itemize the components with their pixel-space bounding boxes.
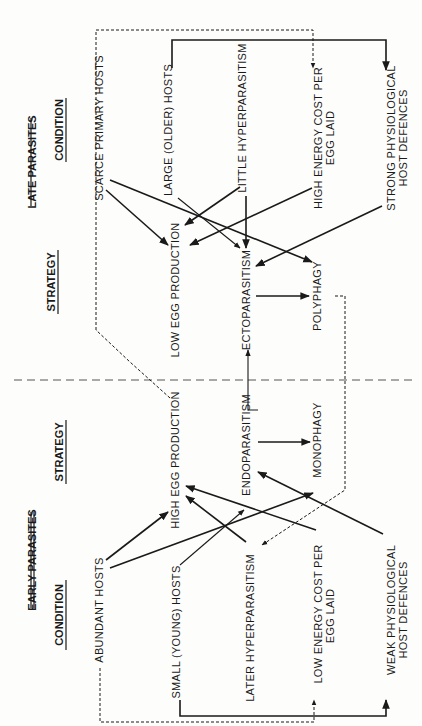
svg-text:EGG LAID: EGG LAID — [324, 589, 336, 643]
node-low-energy-cost: LOW ENERGY COST PER — [312, 544, 324, 683]
svg-text:EGG LAID: EGG LAID — [324, 111, 336, 165]
node-later-hyperparasitism: LATER HYPERPARASITISM — [244, 554, 256, 702]
node-abundant-hosts: ABUNDANT HOSTS — [93, 557, 105, 662]
node-low-egg-production: LOW EGG PRODUCTION — [169, 223, 181, 358]
node-endoparasitism: ENDOPARASITISM — [240, 394, 252, 496]
node-high-energy-cost: HIGH ENERGY COST PER — [312, 67, 324, 209]
node-ectoparasitism: ECTOPARASITISM — [240, 250, 252, 350]
svg-text:HOST DEFENCES: HOST DEFENCES — [397, 561, 409, 658]
node-high-egg-production: HIGH EGG PRODUCTION — [169, 391, 181, 529]
node-weak-host-defences: WEAK PHYSIOLOGICAL — [385, 545, 397, 675]
node-strong-host-defences: STRONG PHYSIOLOGICAL — [385, 65, 397, 210]
parasite-strategy-diagram: EARLY PARASITES CONDITION STRATEGY LATE … — [0, 0, 422, 726]
diagram-canvas: EARLY PARASITES CONDITION STRATEGY LATE … — [0, 0, 422, 726]
early-arrows — [96, 296, 386, 722]
node-little-hyperparasitism: LITTLE HYPERPARASITISM — [236, 43, 248, 192]
late-condition-header: CONDITION — [53, 99, 65, 161]
late-strategy-header: STRATEGY — [45, 252, 57, 312]
node-small-young-hosts: SMALL (YOUNG) HOSTS — [170, 565, 182, 698]
early-strategy-header: STRATEGY — [53, 422, 65, 482]
early-condition-header: CONDITION — [53, 584, 65, 646]
late-parasites-title: LATE PARASITES — [26, 115, 38, 208]
node-scarce-primary-hosts: SCARCE PRIMARY HOSTS — [93, 55, 105, 201]
early-parasites-title: EARLY PARASITES — [26, 509, 38, 610]
node-monophagy: MONOPHAGY — [311, 402, 323, 478]
svg-text:HOST DEFENCES: HOST DEFENCES — [397, 89, 409, 186]
node-polyphagy: POLYPHAGY — [311, 261, 323, 331]
node-large-older-hosts: LARGE (OLDER) HOSTS — [162, 64, 174, 196]
